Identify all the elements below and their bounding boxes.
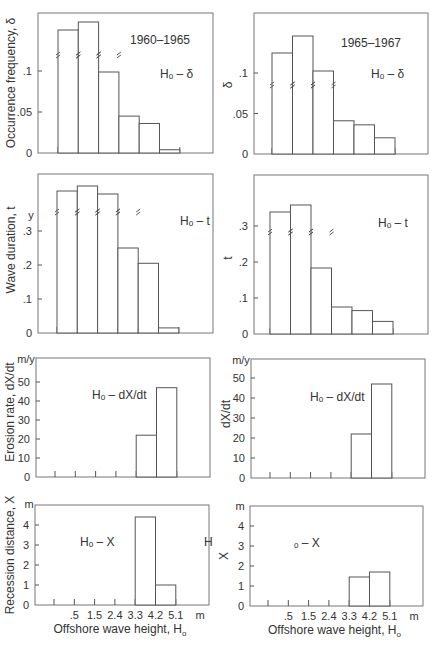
x-axis-right: .51.52.43.34.25.1mOffshore wave height, … xyxy=(268,610,419,639)
y-tick-label: .1 xyxy=(23,65,32,77)
y-tick-label: 0 xyxy=(26,327,32,339)
histogram-bar xyxy=(98,194,118,333)
chart-panel-left-erosion: 01020304050Hₒ – dX/dtm/yErosion rate, dX… xyxy=(3,353,210,483)
y-tick-label: 1 xyxy=(23,579,29,591)
x-tick-label: 2.4 xyxy=(107,609,122,621)
plot-frame xyxy=(35,505,209,605)
y-tick-label: 50 xyxy=(233,372,245,384)
y-tick-label: 0 xyxy=(239,472,245,484)
y-tick-label: 50 xyxy=(18,376,30,388)
histogram-bar xyxy=(156,585,176,605)
relation-annotation: Hₒ – dX/dt xyxy=(92,388,147,402)
y-axis-label: Erosion rate, dX/dt xyxy=(3,362,17,462)
x-tick-label: .5 xyxy=(284,610,293,622)
y-tick-label: 0 xyxy=(26,147,32,159)
y-tick-label: .1 xyxy=(239,67,248,79)
histogram-bar xyxy=(139,123,159,153)
y-unit-label: m xyxy=(235,500,244,512)
y-tick-label: 1 xyxy=(238,580,244,592)
y-tick-label: 20 xyxy=(233,432,245,444)
y-unit-label: y xyxy=(28,209,34,221)
x-unit-label: m xyxy=(196,609,205,621)
axis-break-icon xyxy=(117,52,121,58)
histogram-figure: 0.05.11960–1965Hₒ – δOccurrence frequenc… xyxy=(0,0,432,646)
y-unit-label: m/y xyxy=(232,354,250,366)
histogram-bar xyxy=(159,328,179,333)
y-tick-label: .2 xyxy=(239,256,248,268)
histogram-bar xyxy=(160,150,180,153)
x-tick-label: 1.5 xyxy=(301,610,316,622)
relation-annotation: Hₒ – δ xyxy=(371,67,405,81)
y-tick-label: 0 xyxy=(242,328,248,340)
y-tick-label: 10 xyxy=(233,452,245,464)
y-tick-label: .3 xyxy=(239,220,248,232)
y-tick-label: 0 xyxy=(242,148,248,160)
y-unit-label: m xyxy=(24,498,33,510)
histogram-bar xyxy=(352,311,373,334)
x-tick-label: 1.5 xyxy=(87,609,102,621)
histogram-bar xyxy=(373,321,394,334)
y-tick-label: 4 xyxy=(238,520,244,532)
histogram-bar xyxy=(354,125,375,154)
x-tick-label: .5 xyxy=(70,609,79,621)
y-tick-label: 20 xyxy=(18,433,30,445)
histogram-bar xyxy=(375,138,396,154)
histogram-bar xyxy=(136,435,156,477)
y-tick-label: 2 xyxy=(23,559,29,571)
extra-label: H xyxy=(204,535,213,549)
x-tick-label: 4.2 xyxy=(362,610,377,622)
x-tick-label: 3.3 xyxy=(342,610,357,622)
y-axis-label: t xyxy=(221,256,235,260)
chart-panel-right-erosion: 01020304050Hₒ – dX/dtm/ydX/dt xyxy=(219,354,425,484)
y-axis-label: Recession distance, X xyxy=(3,496,17,615)
x-tick-label: 5.1 xyxy=(382,610,397,622)
y-tick-label: 3 xyxy=(238,540,244,552)
plot-frame xyxy=(250,506,423,606)
histogram-bar xyxy=(351,434,371,478)
y-tick-label: 40 xyxy=(18,395,30,407)
y-tick-label: 0 xyxy=(23,599,29,611)
y-axis-label: dX/dt xyxy=(219,399,233,428)
histogram-bar xyxy=(135,517,155,605)
plot-frame xyxy=(251,359,425,478)
chart-panel-right-frequency: 0.05.11965–1967Hₒ – δδ xyxy=(221,13,428,160)
histogram-bar xyxy=(293,36,314,154)
y-tick-label: .2 xyxy=(23,259,32,271)
y-tick-label: 40 xyxy=(233,392,245,404)
y-tick-label: 3 xyxy=(23,539,29,551)
y-tick-label: 0 xyxy=(24,471,30,483)
histogram-bar xyxy=(370,572,390,606)
histogram-bar xyxy=(77,186,97,333)
histogram-bar xyxy=(58,30,78,153)
x-tick-label: 4.2 xyxy=(148,609,163,621)
y-tick-label: .1 xyxy=(23,293,32,305)
chart-panel-right-duration: 0.1.2.3Hₒ – tt xyxy=(221,175,428,340)
axis-break-icon xyxy=(136,209,140,215)
y-axis-label: Wave duration, t xyxy=(4,206,18,294)
histogram-bar xyxy=(313,71,334,154)
histogram-bar xyxy=(157,388,177,477)
y-tick-label: 4 xyxy=(23,519,29,531)
y-axis-label: δ xyxy=(221,81,235,88)
relation-annotation: Hₒ – t xyxy=(180,214,211,228)
y-tick-label: 2 xyxy=(238,560,244,572)
chart-title: 1960–1965 xyxy=(130,33,190,47)
y-tick-label: .1 xyxy=(239,292,248,304)
x-tick-label: 2.4 xyxy=(321,610,336,622)
histogram-bar xyxy=(291,205,312,334)
x-axis-title: Offshore wave height, Ho xyxy=(268,623,402,639)
y-tick-label: 0 xyxy=(238,600,244,612)
y-tick-label: 10 xyxy=(18,452,30,464)
histogram-bar xyxy=(311,268,332,334)
relation-annotation: Hₒ – dX/dt xyxy=(310,390,365,404)
histogram-bar xyxy=(272,53,293,154)
histogram-bar xyxy=(118,248,138,333)
y-axis-label: Occurrence frequency, δ xyxy=(4,17,18,148)
relation-annotation: Hₒ – δ xyxy=(160,67,194,81)
y-tick-label: 30 xyxy=(233,412,245,424)
histogram-bar xyxy=(138,263,158,333)
relation-annotation: ₒ – X xyxy=(294,536,320,550)
histogram-bar xyxy=(334,121,355,154)
histogram-bar xyxy=(372,384,392,478)
histogram-bar xyxy=(349,577,369,606)
